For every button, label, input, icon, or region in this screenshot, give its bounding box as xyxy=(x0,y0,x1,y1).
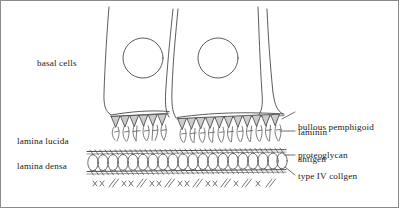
lamina-densa-band xyxy=(87,148,287,175)
fibril-group-5 xyxy=(206,179,231,187)
fibril-group-2 xyxy=(122,179,147,187)
basal-cell-nucleus-left xyxy=(123,38,163,78)
label-type-iv-collagen: type IV collgen xyxy=(298,171,357,182)
leader-type-iv-collagen xyxy=(285,167,295,175)
fibril-group-7 xyxy=(256,179,276,187)
label-laminin: laminin xyxy=(298,127,327,138)
fibril-group-1 xyxy=(93,179,119,187)
basal-cell-layer xyxy=(104,7,283,118)
label-lamina-lucida: lamina lucida xyxy=(17,136,69,147)
label-proteoglycan: proteoglycan xyxy=(298,150,348,161)
basal-cell-left xyxy=(104,7,111,115)
fibril-group-3 xyxy=(150,179,175,187)
anchoring-fibril-zone xyxy=(93,179,276,187)
anchoring-filament-zone xyxy=(112,125,281,143)
leader-line-group xyxy=(280,112,295,175)
fibril-group-6 xyxy=(234,179,252,187)
basal-cell-right xyxy=(267,9,283,114)
fibril-group-4 xyxy=(178,179,203,187)
basement-membrane-diagram: basal cells lamina lucida lamina densa b… xyxy=(0,0,399,208)
hemidesmosome-band-right xyxy=(177,113,284,129)
hemidesmosome-band-left xyxy=(111,111,169,127)
lamina-densa-mesh xyxy=(88,153,287,171)
label-lamina-densa: lamina densa xyxy=(17,161,67,172)
label-basal-cells: basal cells xyxy=(37,58,77,69)
basal-cell-middle xyxy=(165,7,262,118)
basal-cell-nucleus-right xyxy=(198,38,238,78)
